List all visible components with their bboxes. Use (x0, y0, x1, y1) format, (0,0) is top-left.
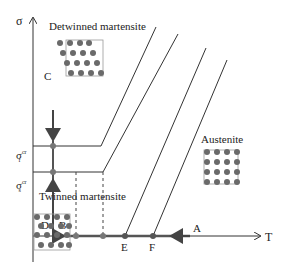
point-dash2 (100, 233, 106, 239)
shape-memory-phase-diagram: σ T σcrf σcrs Detwinned martensite Twinn… (0, 0, 292, 264)
austenite-start-line (125, 48, 206, 236)
point-sigma-f (50, 143, 56, 149)
y-axis-label: σ (16, 14, 23, 28)
point-e-label: E (121, 241, 128, 253)
point-dash1 (73, 233, 79, 239)
point-a-label: A (193, 222, 201, 234)
x-axis-label: T (265, 230, 273, 244)
austenite-finish-line (153, 60, 227, 236)
point-sigma-s (50, 169, 56, 175)
sigma-s-label: σcrs (16, 179, 27, 193)
austenite-lattice-icon (204, 149, 240, 185)
austenite-label: Austenite (201, 133, 243, 145)
detwinned-lattice-icon (57, 40, 104, 76)
sigma-s-line (33, 34, 178, 172)
sigma-f-line (33, 27, 156, 146)
point-f (150, 233, 156, 239)
sigma-f-label: σcrf (16, 149, 27, 163)
point-c-label: C (44, 70, 51, 82)
point-f-label: F (149, 241, 155, 253)
twinned-label: Twinned martensite (39, 190, 126, 202)
detwinned-label: Detwinned martensite (49, 20, 146, 32)
point-e (122, 233, 128, 239)
